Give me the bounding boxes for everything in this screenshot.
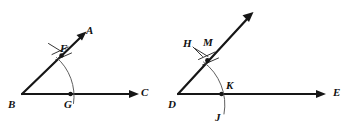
figure-canvas [0,0,359,131]
point-m [205,58,210,63]
diagram-angle-abc [22,32,139,104]
label-point-m: M [203,37,213,48]
ray-d-to-upper [178,18,248,94]
label-point-a: A [86,25,93,36]
compass-arc-b [57,58,75,104]
diagram-angle-dme [178,12,326,114]
label-point-j: J [215,112,221,123]
label-point-k: K [226,80,233,91]
label-point-f: F [60,43,67,54]
label-point-g: G [64,99,72,110]
point-g [68,92,72,96]
arrowhead-e [316,90,326,98]
point-k [219,92,223,96]
label-point-h: H [183,38,192,49]
compass-arc-d [204,62,225,114]
label-point-b: B [8,99,15,110]
label-point-c: C [141,87,148,98]
label-point-d: D [168,99,176,110]
geometry-figure: A B C F G H M D K J E [0,0,359,131]
label-point-e: E [333,87,340,98]
arrowhead-c [129,90,139,98]
arrowhead-upper-right [243,12,254,22]
